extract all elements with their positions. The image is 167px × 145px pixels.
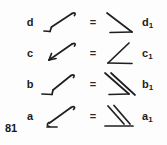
row-left-label: d — [22, 16, 38, 28]
angle-open-left-down-right-diagonal-icon — [102, 8, 144, 40]
row-right-label-subscript: 1 — [148, 52, 152, 61]
equation-row: a = a1 — [0, 102, 167, 134]
arrow-up-right-with-short-tail-icon — [40, 102, 86, 134]
double-diagonal-angle-open-left-icon — [102, 70, 144, 102]
row-right-label-subscript: 1 — [148, 115, 152, 124]
figure-page: d = d1 c — [0, 0, 167, 145]
arrow-up-right-with-horizontal-tail-icon — [40, 70, 86, 102]
row-right-label-text: b — [142, 78, 149, 90]
page-number: 81 — [5, 122, 17, 134]
row-right-label-subscript: 1 — [149, 83, 153, 92]
equals-sign: = — [86, 47, 100, 59]
row-right-label: c1 — [142, 47, 164, 63]
row-right-label: d1 — [142, 16, 164, 32]
row-right-label-text: d — [142, 16, 149, 28]
row-right-label: a1 — [142, 110, 164, 126]
equation-row: c = c1 — [0, 39, 167, 71]
equals-sign: = — [86, 78, 100, 90]
row-left-label: c — [22, 47, 38, 59]
arrow-down-left-with-arrowhead-icon — [40, 39, 86, 71]
angle-open-right-upper-diagonal-icon — [102, 39, 144, 71]
double-diagonal-angle-with-baseline-icon — [102, 102, 144, 134]
equation-row: d = d1 — [0, 8, 167, 40]
row-right-label-subscript: 1 — [149, 21, 153, 30]
equals-sign: = — [86, 16, 100, 28]
row-left-label: a — [22, 110, 38, 122]
row-right-label: b1 — [142, 78, 164, 94]
equation-row: b = b1 — [0, 70, 167, 102]
row-left-label: b — [22, 78, 38, 90]
arrow-up-right-with-start-hook-icon — [40, 8, 86, 40]
equals-sign: = — [86, 110, 100, 122]
